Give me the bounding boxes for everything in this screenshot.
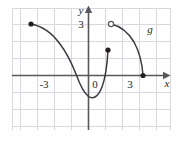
left-endpoint-dot — [28, 21, 33, 26]
function-label-g: g — [147, 23, 153, 35]
graph-figure: -3 0 3 3 y x g — [0, 0, 181, 143]
y-axis-label: y — [78, 4, 84, 16]
figure-background — [0, 0, 181, 143]
x-axis-label: x — [164, 77, 170, 89]
middle-endpoint-dot — [105, 47, 110, 52]
right-endpoint-dot — [140, 73, 145, 78]
x-tick-label-3: 3 — [127, 78, 133, 90]
coordinate-plane: -3 0 3 3 y x g — [0, 0, 181, 143]
open-endpoint-circle — [108, 21, 113, 26]
y-tick-label-3: 3 — [78, 18, 84, 30]
x-tick-label-negative-3: -3 — [39, 78, 49, 90]
origin-label: 0 — [92, 78, 98, 90]
